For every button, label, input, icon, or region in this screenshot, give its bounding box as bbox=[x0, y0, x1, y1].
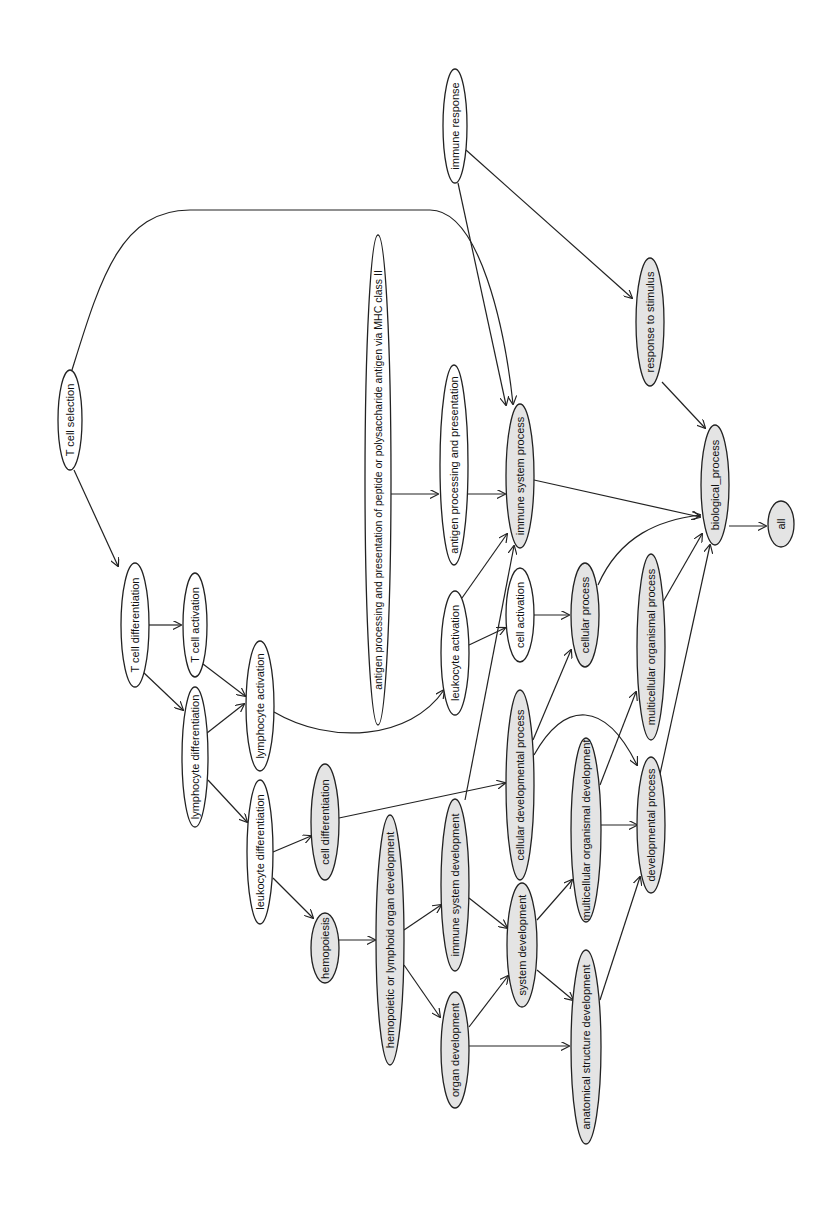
node-hemopoietic-or-lymphoid-organ-development[interactable]: hemopoietic or lymphoid organ developmen… bbox=[376, 815, 404, 1065]
node-label: lymphocyte activation bbox=[254, 653, 266, 758]
node-lymphocyte-differentiation[interactable]: lymphocyte differentiation bbox=[182, 687, 208, 827]
node-label: hemopoiesis bbox=[319, 917, 331, 979]
node-antigen-processing-and-presentation[interactable]: antigen processing and presentation bbox=[440, 365, 468, 565]
nodes-layer: T cell selectionT cell differentiationT … bbox=[58, 69, 794, 1144]
node-label: antigen processing and presentation of p… bbox=[372, 270, 384, 690]
node-lymphocyte-activation[interactable]: lymphocyte activation bbox=[246, 641, 274, 771]
node-label: system development bbox=[516, 895, 528, 996]
node-label: leukocyte differentiation bbox=[254, 794, 266, 909]
node-response-to-stimulus[interactable]: response to stimulus bbox=[636, 258, 664, 386]
edge-rts-to-bio bbox=[662, 382, 705, 428]
edge-syd-to-mod bbox=[537, 880, 572, 920]
node-label: anatomical structure development bbox=[580, 964, 592, 1129]
edge-tcs-to-tcd bbox=[74, 470, 118, 566]
node-leukocyte-differentiation[interactable]: leukocyte differentiation bbox=[247, 780, 273, 924]
edge-syd-to-asd bbox=[537, 970, 573, 1000]
go-term-graph: T cell selectionT cell differentiationT … bbox=[0, 0, 831, 1211]
edge-led-to-ced bbox=[273, 836, 311, 852]
node-label: cell differentiation bbox=[319, 779, 331, 864]
node-cell-differentiation[interactable]: cell differentiation bbox=[311, 764, 339, 880]
node-label: T cell activation bbox=[189, 587, 201, 663]
edge-tca-to-lya bbox=[203, 664, 245, 696]
node-immune-system-development[interactable]: immune system development bbox=[441, 799, 469, 971]
node-biological-process[interactable]: biological_process bbox=[701, 425, 729, 545]
node-label: cell activation bbox=[514, 582, 526, 648]
node-anatomical-structure-development[interactable]: anatomical structure development bbox=[571, 950, 601, 1144]
edge-mop-to-bio bbox=[663, 534, 702, 602]
node-label: leukocyte activation bbox=[449, 605, 461, 701]
node-immune-response[interactable]: immune response bbox=[443, 69, 467, 183]
node-label: organ development bbox=[449, 1003, 461, 1097]
edge-led-to-hem bbox=[273, 878, 313, 918]
edge-imr-to-rts bbox=[466, 150, 632, 298]
node-label: biological_process bbox=[709, 439, 721, 530]
node-label: immune system process bbox=[514, 416, 526, 535]
edge-tcd-to-lyd bbox=[143, 672, 183, 710]
node-label: T cell differentiation bbox=[129, 578, 141, 673]
node-multicellular-organismal-development[interactable]: multicellular organismal development bbox=[571, 738, 601, 922]
node-label: immune system development bbox=[449, 813, 461, 956]
node-cellular-developmental-process[interactable]: cellular developmental process bbox=[506, 690, 534, 880]
node-label: T cell selection bbox=[64, 384, 76, 457]
node-label: developmental process bbox=[645, 768, 657, 882]
edge-lyd-to-led bbox=[208, 780, 247, 822]
node-label: immune response bbox=[449, 82, 461, 169]
node-leukocyte-activation[interactable]: leukocyte activation bbox=[441, 591, 469, 715]
node-all[interactable]: all bbox=[768, 501, 794, 547]
node-cellular-process[interactable]: cellular process bbox=[571, 563, 599, 667]
node-organ-development[interactable]: organ development bbox=[441, 992, 469, 1108]
edge-ced-to-cdp bbox=[339, 783, 505, 818]
node-label: cellular developmental process bbox=[514, 709, 526, 861]
edge-dep-to-bio bbox=[660, 545, 710, 774]
node-label: hemopoietic or lymphoid organ developmen… bbox=[384, 832, 396, 1048]
node-label: lymphocyte differentiation bbox=[189, 695, 201, 820]
node-system-development[interactable]: system development bbox=[507, 883, 537, 1007]
edge-isd-to-syd bbox=[469, 898, 507, 928]
edge-isp-to-bio bbox=[534, 480, 700, 517]
node-t-cell-differentiation[interactable]: T cell differentiation bbox=[121, 563, 149, 687]
edge-lyd-to-lya bbox=[207, 704, 244, 733]
node-immune-system-process[interactable]: immune system process bbox=[506, 404, 534, 548]
edge-hlo-to-isd bbox=[404, 905, 441, 930]
node-label: all bbox=[775, 518, 787, 529]
edge-imr-to-isp bbox=[458, 183, 506, 405]
node-antigen-processing-and-presentation-of-peptide-or-polysaccharide-antigen-via-mhc-class-ii[interactable]: antigen processing and presentation of p… bbox=[365, 235, 391, 725]
edge-ord-to-syd bbox=[469, 976, 508, 1027]
node-label: multicellular organismal development bbox=[580, 740, 592, 921]
edge-lya-to-lea bbox=[274, 690, 444, 733]
node-label: cellular process bbox=[579, 576, 591, 653]
edge-tcs-to-isp bbox=[72, 210, 513, 404]
node-t-cell-activation[interactable]: T cell activation bbox=[183, 573, 207, 677]
node-developmental-process[interactable]: developmental process bbox=[637, 757, 665, 893]
edge-lea-to-isp bbox=[462, 534, 507, 598]
edge-cdp-to-cep bbox=[533, 650, 571, 740]
node-cell-activation[interactable]: cell activation bbox=[506, 568, 534, 662]
node-label: response to stimulus bbox=[644, 271, 656, 372]
edge-mod-to-mop bbox=[600, 692, 636, 785]
node-label: multicellular organismal process bbox=[645, 568, 657, 725]
edge-hlo-to-ord bbox=[404, 965, 440, 1017]
node-multicellular-organismal-process[interactable]: multicellular organismal process bbox=[637, 554, 665, 740]
node-hemopoiesis[interactable]: hemopoiesis bbox=[311, 913, 339, 983]
node-label: antigen processing and presentation bbox=[448, 376, 460, 553]
edge-asd-to-dep bbox=[600, 877, 640, 1000]
edge-lea-to-cea bbox=[469, 628, 505, 645]
node-t-cell-selection[interactable]: T cell selection bbox=[58, 370, 82, 470]
